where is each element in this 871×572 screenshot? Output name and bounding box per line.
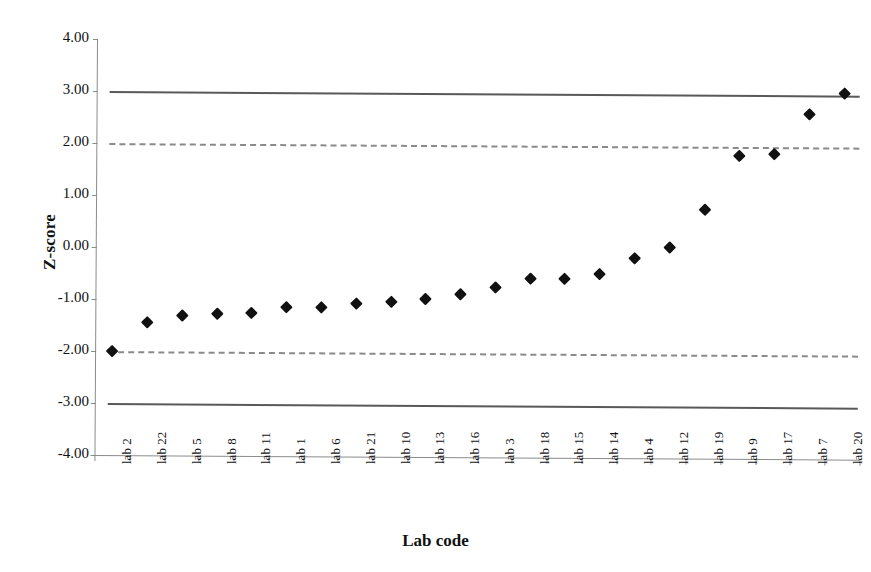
y-tick-mark [93, 91, 98, 92]
y-tick-label: -4.00 [27, 445, 89, 462]
data-point-lab-15[interactable] [559, 272, 572, 285]
data-point-lab-16[interactable] [454, 288, 467, 301]
data-point-lab-7[interactable] [803, 108, 816, 121]
y-tick-mark [91, 403, 96, 404]
data-point-lab-14[interactable] [593, 268, 606, 281]
x-tick-label-lab-11: lab 11 [258, 432, 274, 464]
y-tick-label: 0.00 [27, 237, 89, 254]
data-point-lab-3[interactable] [489, 282, 502, 295]
y-tick-label: 2.00 [27, 133, 89, 150]
data-point-lab-6[interactable] [315, 301, 328, 314]
x-tick-label-lab-14: lab 14 [606, 432, 622, 464]
data-point-lab-17[interactable] [768, 148, 781, 161]
x-tick-label-lab-21: lab 21 [363, 432, 379, 464]
x-tick-label-lab-3: lab 3 [502, 438, 518, 464]
x-tick-label-lab-6: lab 6 [328, 438, 344, 464]
data-point-lab-11[interactable] [245, 307, 258, 320]
y-tick-mark [91, 351, 96, 352]
y-axis-ticks-group [97, 39, 862, 44]
data-point-lab-12[interactable] [663, 241, 676, 254]
x-tick-label-lab-7: lab 7 [815, 438, 831, 464]
x-tick-label-lab-4: lab 4 [641, 438, 657, 464]
x-axis-title: Lab code [0, 531, 871, 551]
x-tick-label-lab-19: lab 19 [711, 432, 727, 464]
x-tick-label-lab-9: lab 9 [745, 438, 761, 464]
y-tick-label: -2.00 [27, 341, 89, 358]
y-tick-mark [91, 299, 96, 300]
x-tick-label-lab-1: lab 1 [293, 438, 309, 464]
x-tick-label-lab-20: lab 20 [850, 432, 866, 464]
x-tick-label-lab-17: lab 17 [780, 432, 796, 464]
x-tick-label-lab-22: lab 22 [154, 432, 170, 464]
plot-area: lab 2lab 22lab 5lab 8lab 11lab 1lab 6lab… [97, 39, 862, 455]
x-tick-label-lab-13: lab 13 [432, 432, 448, 464]
y-tick-mark [93, 39, 98, 40]
data-point-lab-10[interactable] [385, 295, 398, 308]
x-tick-label-lab-12: lab 12 [676, 432, 692, 464]
data-point-lab-4[interactable] [628, 252, 641, 265]
reference-line-warning-limit-upper [109, 143, 859, 150]
x-tick-label-lab-10: lab 10 [398, 432, 414, 464]
y-tick-label: 3.00 [27, 81, 89, 98]
data-point-lab-2[interactable] [106, 345, 119, 358]
data-point-lab-19[interactable] [698, 203, 711, 216]
x-tick-label-lab-18: lab 18 [537, 432, 553, 464]
data-point-lab-5[interactable] [176, 309, 189, 322]
y-tick-label: 4.00 [27, 29, 89, 46]
y-tick-label: -3.00 [27, 393, 89, 410]
y-tick-label: 1.00 [27, 185, 89, 202]
y-tick-label: -1.00 [27, 289, 89, 306]
x-tick-label-lab-2: lab 2 [119, 438, 135, 464]
data-markers-group [97, 39, 862, 44]
reference-line-action-limit-lower [108, 403, 858, 410]
data-point-lab-9[interactable] [733, 150, 746, 163]
data-point-lab-18[interactable] [524, 272, 537, 285]
plot-content [94, 39, 862, 460]
y-tick-mark [92, 247, 97, 248]
data-point-lab-13[interactable] [419, 293, 432, 306]
x-axis-ticks-group [97, 39, 862, 44]
x-tick-label-lab-8: lab 8 [224, 438, 240, 464]
x-tick-mark [94, 455, 95, 461]
data-point-lab-21[interactable] [350, 297, 363, 310]
y-tick-mark [92, 143, 97, 144]
y-tick-mark [92, 195, 97, 196]
x-tick-label-lab-5: lab 5 [189, 438, 205, 464]
z-score-chart-figure: Z-score Lab code lab 2lab 22lab 5lab 8la… [0, 0, 871, 572]
x-tick-label-lab-16: lab 16 [467, 432, 483, 464]
data-point-lab-22[interactable] [141, 316, 154, 329]
data-point-lab-8[interactable] [211, 307, 224, 320]
x-tick-label-lab-15: lab 15 [571, 432, 587, 464]
reference-line-action-limit-upper [110, 91, 860, 98]
data-point-lab-1[interactable] [280, 301, 293, 314]
reference-line-warning-limit-lower [108, 351, 858, 358]
reference-lines-group [97, 39, 862, 44]
data-point-lab-20[interactable] [838, 87, 851, 100]
